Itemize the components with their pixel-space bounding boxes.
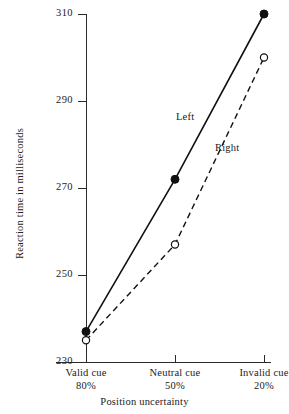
series-line-right [86, 58, 264, 341]
data-point [82, 328, 90, 336]
reaction-time-line-chart: 310 290 270 250 230 Valid cue 80% Neutra… [0, 0, 289, 414]
series-annotation-left: Left [176, 111, 194, 122]
data-point [260, 10, 268, 18]
series-annotation-right: Right [215, 142, 239, 153]
data-point [260, 54, 267, 61]
series-line-left [86, 14, 264, 332]
plot-area [0, 0, 289, 414]
data-point [171, 175, 179, 183]
data-point [82, 337, 89, 344]
series-markers-right [82, 54, 267, 344]
data-point [171, 241, 178, 248]
